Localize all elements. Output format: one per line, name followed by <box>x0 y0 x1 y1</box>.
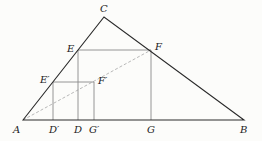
label-D: D <box>73 124 82 135</box>
label-F: F <box>154 41 163 52</box>
label-F-prime: F′ <box>97 75 108 86</box>
dashed-line-AF <box>23 50 151 120</box>
square-DEFG-prime <box>53 82 94 120</box>
label-E-prime: E′ <box>39 74 50 85</box>
label-G: G <box>147 124 155 135</box>
triangle-ABC <box>23 17 244 120</box>
label-A: A <box>12 124 20 135</box>
label-C: C <box>100 3 108 14</box>
label-B: B <box>239 124 247 135</box>
label-D-prime: D′ <box>48 124 60 135</box>
label-G-prime: G′ <box>89 124 100 135</box>
square-DEFG <box>78 50 151 120</box>
label-E: E <box>66 43 75 54</box>
geometry-diagram: C A B E F E′ F′ D′ D G′ G <box>0 0 262 141</box>
